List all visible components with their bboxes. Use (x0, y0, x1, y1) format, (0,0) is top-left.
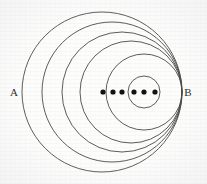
dots-group (100, 89, 157, 94)
point-label-a: A (10, 86, 18, 98)
dot-2 (110, 89, 115, 94)
dot-1 (100, 89, 105, 94)
diagram-canvas: A B (0, 0, 207, 184)
point-label-b: B (184, 86, 191, 98)
dot-5 (141, 89, 146, 94)
coaxial-circles-figure: A B (0, 0, 207, 184)
dot-6 (152, 89, 157, 94)
dot-3 (119, 89, 124, 94)
dot-4 (131, 89, 136, 94)
